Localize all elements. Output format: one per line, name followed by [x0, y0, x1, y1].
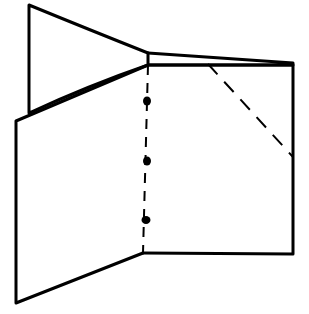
- top-sliver: [148, 53, 293, 65]
- back-flap: [29, 5, 148, 113]
- fold-dot-bottom: [142, 216, 151, 224]
- fold-diagram: [0, 0, 309, 314]
- left-panel: [16, 65, 148, 303]
- fold-dot-top: [143, 97, 151, 106]
- right-panel: [143, 65, 293, 254]
- valley-fold-dashed-line: [208, 64, 293, 157]
- fold-dot-middle: [143, 157, 151, 166]
